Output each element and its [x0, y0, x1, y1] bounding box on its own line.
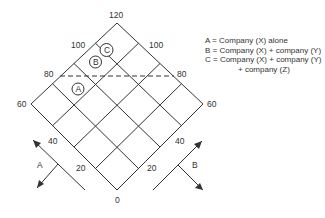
label-left-60: 60	[17, 100, 26, 109]
label-upper-right-100: 100	[149, 41, 163, 50]
label-upper-left-100: 100	[71, 41, 85, 50]
arrowhead-b-down-icon	[195, 183, 203, 190]
label-lower-right-40: 40	[175, 137, 184, 146]
label-top-120: 120	[109, 11, 123, 20]
label-lower-left-20: 20	[76, 164, 85, 173]
legend-item-b: B = Company (X) + company (Y)	[205, 46, 321, 56]
legend-item-c: C = Company (X) + company (Y)	[205, 55, 321, 65]
diamond-diagram	[0, 0, 325, 218]
label-lower-left-40: 40	[48, 137, 57, 146]
label-bottom-0: 0	[115, 196, 120, 205]
marker-b-label: B	[93, 58, 99, 67]
marker-a-label: A	[76, 85, 82, 94]
label-upper-right-80: 80	[177, 70, 186, 79]
legend: A = Company (X) alone B = Company (X) + …	[205, 36, 321, 74]
grid-lines-ascending	[53, 43, 182, 168]
axis-arrow-a-label: A	[37, 161, 43, 170]
marker-c-label: C	[104, 46, 110, 55]
axis-arrow-b-label: B	[192, 161, 198, 170]
legend-item-a: A = Company (X) alone	[205, 36, 321, 46]
label-lower-right-20: 20	[147, 164, 156, 173]
label-right-60: 60	[207, 100, 216, 109]
label-upper-left-80: 80	[44, 70, 53, 79]
legend-item-c-continuation: + company (Z)	[205, 65, 321, 75]
